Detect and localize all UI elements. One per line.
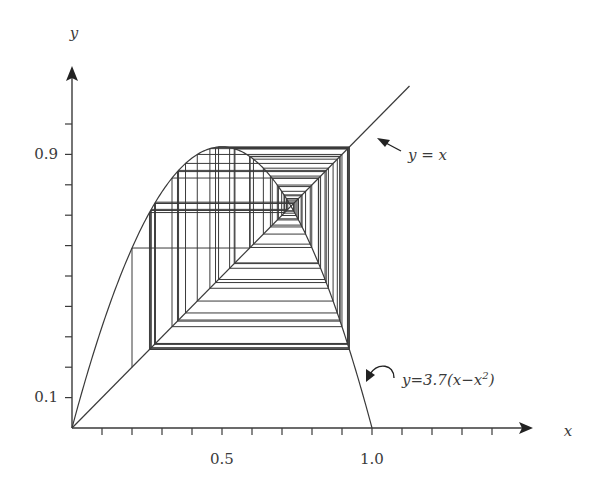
y-tick-label-0.9: 0.9 bbox=[34, 145, 58, 163]
logistic-curve bbox=[72, 147, 372, 428]
y-tick-label-0.1: 0.1 bbox=[34, 388, 58, 406]
x-ticks bbox=[102, 428, 492, 435]
cobweb-chart: 0.5 1.0 0.9 0.1 x y y = x y=3.7(x−x2) bbox=[0, 0, 597, 495]
x-tick-label-0.5: 0.5 bbox=[210, 450, 234, 468]
curve-annotation-curved-arrow bbox=[370, 366, 394, 378]
identity-line bbox=[72, 86, 410, 428]
curve-annotation: y=3.7(x−x2) bbox=[401, 370, 495, 389]
arrow-head-icon bbox=[377, 138, 390, 147]
y-axis-label: y bbox=[69, 24, 79, 42]
y-ticks bbox=[65, 124, 72, 398]
x-axis-label: x bbox=[564, 422, 573, 440]
x-tick-label-1.0: 1.0 bbox=[360, 450, 384, 468]
identity-annotation: y = x bbox=[407, 146, 448, 164]
curved-arrow-head-icon bbox=[366, 369, 375, 382]
